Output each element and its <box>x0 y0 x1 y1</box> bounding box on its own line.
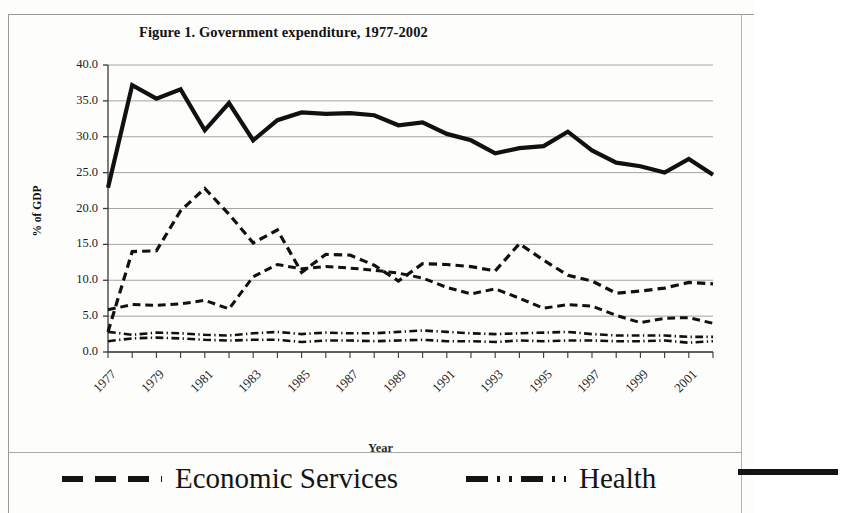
data-series-line <box>108 338 713 343</box>
legend-label-economic-services: Economic Services <box>175 464 398 493</box>
legend-item-health[interactable]: Health <box>464 464 656 493</box>
y-tick-label: 10.0 <box>54 272 98 287</box>
y-tick-label: 15.0 <box>54 236 98 251</box>
x-axis-title: Year <box>368 441 393 456</box>
y-tick-label: 20.0 <box>54 201 98 216</box>
legend-item-economic-services[interactable]: Economic Services <box>60 464 398 493</box>
y-tick-label: 30.0 <box>54 129 98 144</box>
y-tick-label: 35.0 <box>54 93 98 108</box>
legend-label-health: Health <box>579 464 656 493</box>
legend-item-truncated[interactable] <box>736 464 842 480</box>
chart-area: 0.05.010.015.020.025.030.035.040.0 19771… <box>0 0 754 452</box>
data-series-line <box>108 331 713 337</box>
legend-swatch-solid-icon <box>736 464 840 480</box>
chart-legend: Economic Services Health <box>0 456 754 513</box>
y-tick-label: 5.0 <box>54 308 98 323</box>
x-tick-marks <box>108 352 713 358</box>
gridlines <box>108 65 713 352</box>
legend-swatch-dash-dot-icon <box>464 471 568 487</box>
y-tick-marks <box>103 65 108 352</box>
legend-swatch-dashed-icon <box>60 471 164 487</box>
data-series-group <box>108 85 713 343</box>
y-tick-label: 25.0 <box>54 165 98 180</box>
data-series-line <box>108 188 713 332</box>
y-tick-label: 0.0 <box>54 344 98 359</box>
y-axis-title: % of GDP <box>31 168 43 254</box>
y-tick-label: 40.0 <box>54 57 98 72</box>
